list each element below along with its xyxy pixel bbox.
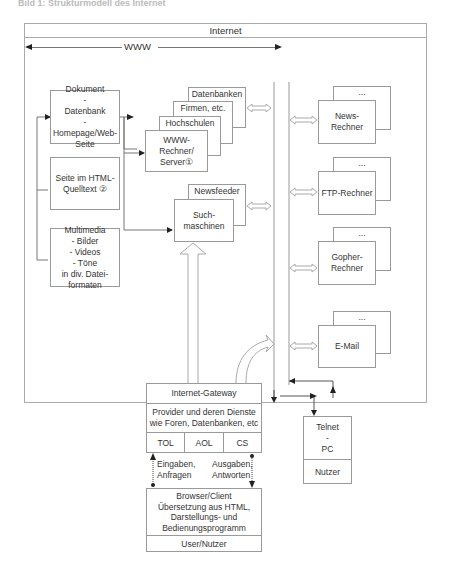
gateway-panel: Internet-Gateway Provider und deren Dien… xyxy=(146,383,262,453)
input-flow-label: Eingaben, Anfragen xyxy=(157,459,195,481)
service-tol: TOL xyxy=(147,433,185,453)
client-panel: Browser/Client Übersetzung aus HTML, Dar… xyxy=(146,488,262,552)
browser-client-label: Browser/Client Übersetzung aus HTML, Dar… xyxy=(147,489,261,536)
server-layer-label: Datenbanken xyxy=(189,88,245,99)
multimedia-box: Multimedia - Bilder - Videos - Töne in d… xyxy=(50,228,120,287)
ellipsis-label: ... xyxy=(358,87,365,97)
telnet-pc-label: Telnet - PC xyxy=(304,417,351,460)
gateway-services-row: TOL AOL CS xyxy=(147,433,261,453)
html-source-box: Seite im HTML- Quelltext ② xyxy=(50,157,120,210)
output-flow-label: Ausgaben, Antworten xyxy=(212,459,250,481)
www-server-box: WWW- Rechner/ Server① xyxy=(145,130,208,172)
news-server-box: News- Rechner xyxy=(318,100,376,144)
email-server-box: E-Mail xyxy=(318,325,376,368)
search-engines-box: Such- maschinen xyxy=(174,199,234,242)
gopher-server-box: Gopher- Rechner xyxy=(318,241,376,285)
gateway-providers: Provider und deren Dienste wie Foren, Da… xyxy=(147,404,261,433)
ellipsis-label: ... xyxy=(358,312,365,322)
gateway-title: Internet-Gateway xyxy=(147,384,261,404)
service-aol: AOL xyxy=(185,433,223,453)
server-layer-label: Hochschulen xyxy=(160,117,220,128)
telnet-user-label: Nutzer xyxy=(304,460,351,484)
service-cs: CS xyxy=(224,433,261,453)
ellipsis-label: ... xyxy=(358,228,365,238)
telnet-panel: Telnet - PC Nutzer xyxy=(303,416,352,484)
server-layer-label: Firmen, etc. xyxy=(174,102,232,113)
user-label: User/Nutzer xyxy=(147,536,261,552)
ellipsis-label: ... xyxy=(358,158,365,168)
ftp-server-box: FTP-Rechner xyxy=(318,171,376,215)
newsfeeder-label: Newsfeeder xyxy=(189,185,245,196)
document-box: Dokument - Datenbank - Homepage/Web- Sei… xyxy=(50,90,120,144)
